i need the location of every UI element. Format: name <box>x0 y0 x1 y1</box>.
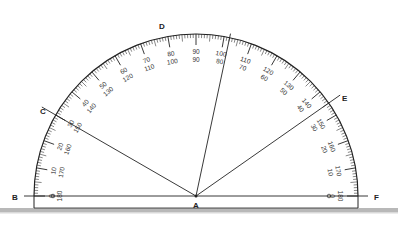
scale-tick <box>146 42 147 46</box>
scale-tick <box>258 47 260 51</box>
scale-number-outer: 90 <box>192 48 200 55</box>
scale-number-inner: 100 <box>166 57 178 66</box>
floor-band <box>0 208 398 212</box>
scale-tick <box>270 53 272 57</box>
scale-tick <box>154 40 156 47</box>
scale-tick <box>60 108 63 110</box>
scale-tick <box>346 154 353 156</box>
scale-tick <box>53 120 57 122</box>
scale-tick <box>65 101 68 103</box>
scale-tick <box>59 110 62 112</box>
scale-tick <box>300 74 303 77</box>
scale-tick <box>312 86 315 89</box>
scale-number-outer: 170 <box>334 165 343 177</box>
scale-tick <box>138 45 139 49</box>
scale-tick <box>285 63 289 69</box>
scale-tick <box>348 151 352 152</box>
scale-tick <box>72 92 80 99</box>
scale-tick <box>149 41 150 45</box>
scale-tick <box>48 130 52 132</box>
scale-tick <box>99 67 101 70</box>
scale-tick <box>160 38 161 42</box>
scale-tick <box>336 128 342 131</box>
scale-tick <box>265 50 267 54</box>
scale-tick <box>125 50 127 54</box>
scale-tick <box>52 122 56 124</box>
scale-tick <box>315 90 318 93</box>
scale-tick <box>313 88 316 91</box>
scale-tick <box>232 38 233 42</box>
scale-number-inner: 80 <box>216 57 225 65</box>
point-label-f: F <box>374 193 379 202</box>
scale-tick <box>81 81 86 86</box>
scale-tick <box>165 37 166 41</box>
scale-tick <box>331 113 334 115</box>
scale-tick <box>40 151 44 152</box>
scale-tick <box>37 165 41 166</box>
scale-tick <box>108 60 110 63</box>
scale-tick <box>319 94 322 97</box>
scale-tick <box>135 46 136 50</box>
scale-tick <box>133 47 135 51</box>
scale-tick <box>86 78 89 81</box>
scale-tick <box>351 162 355 163</box>
scale-tick <box>262 49 265 55</box>
scale-tick <box>157 39 158 43</box>
scale-tick <box>295 70 298 73</box>
scale-tick <box>351 165 355 166</box>
scale-tick <box>248 44 252 54</box>
scale-number-inner: 20 <box>320 145 329 155</box>
scale-tick <box>349 157 353 158</box>
scale-tick <box>352 173 356 174</box>
scale-tick <box>273 54 275 57</box>
scale-tick <box>70 94 73 97</box>
scale-tick <box>94 70 97 73</box>
scale-tick <box>334 117 337 119</box>
scale-tick <box>63 103 69 107</box>
scale-tick <box>83 79 86 82</box>
scale-tick <box>38 160 42 161</box>
scale-tick <box>310 83 313 86</box>
scale-tick <box>42 146 46 147</box>
scale-tick <box>345 143 349 144</box>
scale-tick <box>338 141 348 145</box>
scale-tick <box>226 37 227 41</box>
scale-tick <box>302 76 305 79</box>
scale-tick <box>280 59 282 62</box>
scale-tick <box>79 83 82 86</box>
scale-tick <box>62 105 65 107</box>
scale-tick <box>74 90 77 93</box>
scale-tick <box>344 138 348 139</box>
scale-tick <box>253 45 254 49</box>
scale-tick <box>67 99 70 101</box>
scale-tick <box>277 57 279 60</box>
scale-tick <box>141 44 145 54</box>
scale-tick <box>110 59 112 62</box>
point-label-c: C <box>40 107 46 116</box>
scale-tick <box>352 171 356 172</box>
scale-number-inner: 170 <box>57 166 66 178</box>
point-label-a: A <box>193 201 199 210</box>
scale-tick <box>255 46 256 50</box>
scale-tick <box>101 65 103 68</box>
scale-tick <box>341 133 345 135</box>
scale-tick <box>340 130 344 132</box>
scale-tick <box>182 35 183 42</box>
scale-tick <box>345 168 356 170</box>
scale-tick <box>347 149 351 150</box>
scale-number-outer: 80 <box>167 49 176 57</box>
scale-tick <box>291 67 293 70</box>
scale-tick <box>54 117 57 119</box>
scale-tick <box>50 125 54 127</box>
scale-tick <box>218 36 219 40</box>
scale-tick <box>306 81 311 86</box>
point-label-b: B <box>12 193 18 202</box>
scale-tick <box>336 120 340 122</box>
scale-tick <box>44 141 54 145</box>
scale-tick <box>327 105 330 107</box>
center-point-a <box>195 195 198 198</box>
scale-tick <box>324 101 327 103</box>
ray-ae <box>196 95 340 196</box>
scale-tick <box>322 99 325 101</box>
scale-tick <box>293 72 300 80</box>
